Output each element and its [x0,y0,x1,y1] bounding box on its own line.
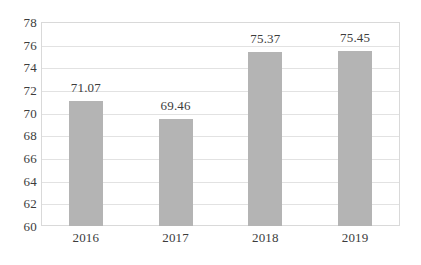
y-axis-tick-label: 72 [3,84,37,97]
x-axis-tick-label-2017: 2017 [162,231,189,245]
bar-slot: 75.45 [310,22,400,226]
bar-slot: 71.07 [41,22,131,226]
y-axis-tick-label: 60 [3,220,37,233]
y-axis-tick-label: 78 [3,16,37,29]
y-axis-tick-label: 70 [3,107,37,120]
bar-chart: 78767472706866646260 71.0769.4675.3775.4… [0,0,421,265]
bar-2017[interactable] [159,119,193,226]
y-axis-tick-label: 64 [3,175,37,188]
x-axis-tick-label-2019: 2019 [342,231,369,245]
bars-layer: 71.0769.4675.3775.45 [41,22,400,226]
x-axis-tick-label-2016: 2016 [72,231,99,245]
bar-slot: 69.46 [131,22,221,226]
y-axis-tick-label: 74 [3,61,37,74]
x-axis: 2016201720182019 [41,231,400,251]
y-axis-tick-label: 62 [3,197,37,210]
bar-value-label-2017: 69.46 [161,99,191,112]
y-axis-tick-label: 76 [3,39,37,52]
bar-2018[interactable] [248,52,282,226]
bar-slot: 75.37 [221,22,311,226]
y-axis-tick-label: 66 [3,152,37,165]
x-axis-tick-label-2018: 2018 [252,231,279,245]
bar-2016[interactable] [69,101,103,226]
bar-2019[interactable] [338,51,372,226]
bar-value-label-2018: 75.37 [250,32,280,45]
y-axis: 78767472706866646260 [0,22,37,226]
bar-value-label-2016: 71.07 [71,81,101,94]
bar-value-label-2019: 75.45 [340,31,370,44]
y-axis-tick-label: 68 [3,129,37,142]
